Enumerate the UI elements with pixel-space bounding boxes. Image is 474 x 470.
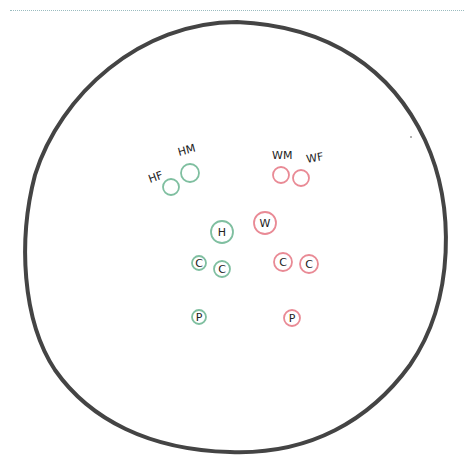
- node-hm: HM: [176, 142, 199, 182]
- outer-circle: [25, 22, 446, 452]
- right-group: WMWFWCCP: [254, 149, 324, 326]
- node-wf: WF: [293, 150, 324, 186]
- node-c: C: [192, 256, 206, 270]
- node-label: HM: [176, 142, 197, 159]
- node-p: P: [284, 310, 300, 326]
- node-label: C: [305, 258, 313, 271]
- node-label: C: [195, 257, 203, 270]
- hand-drawn-diagram: HFHMHCCPWMWFWCCP: [0, 0, 474, 470]
- node-label: WM: [272, 149, 292, 162]
- node-p: P: [192, 310, 206, 324]
- node-hf: HF: [147, 169, 179, 195]
- node-circle: [273, 167, 289, 183]
- node-circle: [293, 170, 309, 186]
- node-circle: [181, 164, 199, 182]
- node-label: H: [218, 226, 226, 239]
- node-label: C: [218, 263, 226, 276]
- node-label: W: [260, 217, 271, 230]
- node-h: H: [211, 221, 233, 243]
- node-label: C: [279, 256, 287, 269]
- node-wm: WM: [272, 149, 292, 183]
- stray-dot: [410, 136, 412, 138]
- node-label: WF: [305, 150, 324, 166]
- node-c: C: [214, 261, 230, 277]
- node-label: HF: [147, 169, 165, 186]
- node-c: C: [300, 255, 318, 273]
- node-c: C: [274, 253, 292, 271]
- node-label: P: [196, 311, 203, 324]
- left-group: HFHMHCCP: [147, 142, 233, 324]
- node-circle: [163, 179, 179, 195]
- nodes-layer: HFHMHCCPWMWFWCCP: [147, 142, 325, 326]
- node-label: P: [289, 312, 296, 325]
- node-w: W: [254, 212, 276, 234]
